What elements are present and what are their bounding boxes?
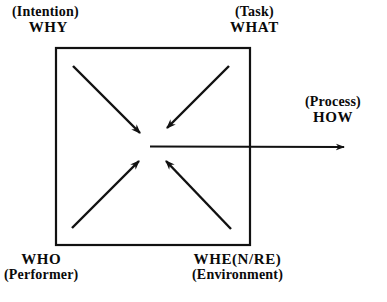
label-what-word: WHAT bbox=[230, 19, 279, 35]
label-how-word: HOW bbox=[305, 109, 361, 125]
arrow-from-why bbox=[73, 66, 140, 133]
label-why-word: WHY bbox=[12, 19, 79, 35]
label-how: (Process) HOW bbox=[305, 94, 361, 125]
diagram-canvas: (Intention) WHY (Task) WHAT (Process) HO… bbox=[0, 0, 387, 302]
label-who-word: WHO bbox=[4, 251, 78, 267]
arrow-from-what bbox=[167, 66, 229, 128]
label-what-paren: (Task) bbox=[230, 4, 279, 19]
label-when-word: WHE(N/RE) bbox=[192, 251, 283, 267]
arrow-from-when bbox=[166, 161, 231, 229]
arrow-from-who bbox=[72, 161, 139, 228]
label-why: (Intention) WHY bbox=[12, 4, 79, 35]
label-who-paren: (Performer) bbox=[4, 267, 78, 282]
label-why-paren: (Intention) bbox=[12, 4, 79, 19]
label-who: WHO (Performer) bbox=[4, 251, 78, 282]
label-how-paren: (Process) bbox=[305, 94, 361, 109]
label-when: WHE(N/RE) (Environment) bbox=[192, 251, 283, 282]
label-when-paren: (Environment) bbox=[192, 267, 283, 282]
label-what: (Task) WHAT bbox=[230, 4, 279, 35]
arrow-to-how bbox=[150, 147, 344, 148]
